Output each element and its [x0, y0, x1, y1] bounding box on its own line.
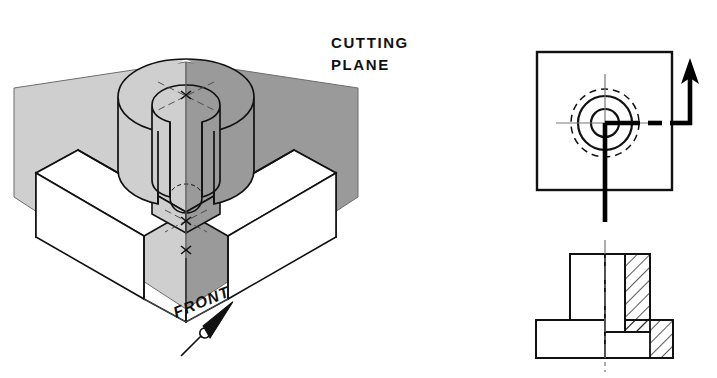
- drawing-canvas: FRONT CUTTING PLANE: [0, 0, 717, 378]
- front-view-hole-void-base: [605, 332, 650, 358]
- cutting-plane-label-line1: CUTTING: [331, 34, 409, 51]
- front-view-boss-right-hatched: [625, 254, 650, 332]
- isometric-pictorial-group: FRONT: [14, 59, 358, 356]
- front-view-bore-void: [605, 254, 625, 332]
- technical-drawing-figure: FRONT CUTTING PLANE: [0, 0, 717, 378]
- front-view-boss-left: [570, 254, 605, 320]
- cutting-plane-label-line2: PLANE: [331, 56, 390, 73]
- front-view-group: [536, 240, 673, 372]
- front-view-base-left: [536, 320, 605, 358]
- cutting-plane-label-group: CUTTING PLANE: [331, 34, 409, 73]
- top-view-group: [537, 52, 699, 222]
